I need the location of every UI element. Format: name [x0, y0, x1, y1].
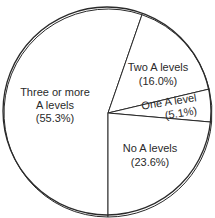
label-three-or-more-line2: A levels — [36, 99, 74, 111]
label-three-or-more-line1: Three or more — [20, 86, 90, 98]
label-none-value: (23.6%) — [131, 156, 170, 168]
label-none-line1: No A levels — [123, 142, 178, 154]
label-three-or-more-value: (55.3%) — [36, 112, 75, 124]
pie-chart: Three or more A levels (55.3%) Two A lev… — [0, 0, 215, 218]
label-two-line1: Two A levels — [128, 61, 189, 73]
label-two-value: (16.0%) — [139, 75, 178, 87]
